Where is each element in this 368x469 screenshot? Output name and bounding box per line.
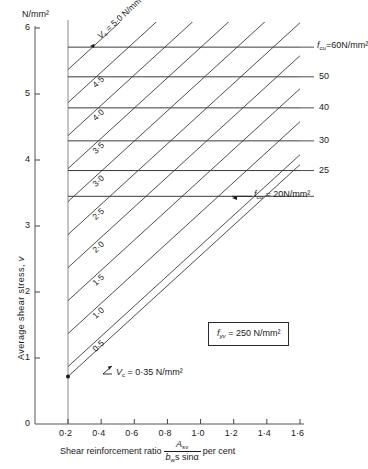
y-axis-title-text: Average shear stress, — [16, 261, 26, 360]
x-tick-label-1·2: 1·2 — [225, 429, 238, 438]
vc-min-start-dot — [66, 374, 70, 378]
vc-diagonal-line — [68, 122, 300, 334]
vc-diagonal-line — [68, 56, 300, 268]
x-axis-title-suffix: per cent — [203, 446, 236, 456]
y-tick-label-4: 4 — [25, 155, 30, 164]
fcu-top-value: =60N/mm² — [326, 40, 368, 50]
fcu-bottom-value: = 20N/mm² — [263, 189, 310, 199]
fcu-label-40: 40 — [319, 103, 329, 112]
x-tick-label-0·8: 0·8 — [158, 429, 171, 438]
x-tick-label-1·0: 1·0 — [192, 429, 205, 438]
y-tick-label-3: 3 — [25, 221, 30, 230]
vc-min-annotation: Vc = 0·35 N/mm² — [116, 368, 183, 378]
fcu-bottom-label: fcu = 20N/mm² — [254, 190, 310, 200]
fcu-top-label: fcu=60N/mm² — [317, 41, 368, 51]
x-axis-den-rest: s sinα — [175, 452, 199, 462]
y-tick-label-1: 1 — [25, 353, 30, 362]
axes-group — [35, 20, 304, 424]
x-tick-label-1·6: 1·6 — [291, 429, 304, 438]
fcu-label-25: 25 — [319, 166, 329, 175]
y-tick-label-5: 5 — [25, 89, 30, 98]
vc-diagonal-line — [68, 23, 300, 235]
y-axis-title-symbol: v — [16, 256, 26, 261]
x-tick-label-0·6: 0·6 — [125, 429, 138, 438]
x-axis-num-subscript: sv — [182, 443, 188, 450]
tick-marks-group — [35, 28, 300, 424]
y-axis-title: Average shear stress, v — [16, 256, 26, 360]
x-axis-title: Shear reinforcement ratio Asv bws sinα p… — [60, 440, 235, 463]
x-axis-fraction-denominator: bws sinα — [164, 452, 201, 463]
fcu-label-50: 50 — [319, 72, 329, 81]
y-tick-label-0: 0 — [25, 419, 30, 428]
vc-min-value: = 0·35 N/mm² — [125, 367, 183, 377]
fyv-note-box: fyv = 250 N/mm² — [208, 322, 289, 346]
x-tick-label-0·2: 0·2 — [59, 429, 72, 438]
x-axis-fraction-numerator: Asv — [164, 440, 201, 452]
x-axis-title-prefix: Shear reinforcement ratio — [60, 446, 162, 456]
x-tick-label-1·4: 1·4 — [258, 429, 271, 438]
y-axis-unit-label: N/mm² — [22, 10, 49, 19]
x-axis-title-fraction: Asv bws sinα — [164, 440, 201, 463]
fyv-value: = 250 N/mm² — [226, 328, 281, 338]
y-tick-label-6: 6 — [25, 23, 30, 32]
fcu-label-30: 30 — [319, 136, 329, 145]
x-tick-label-0·4: 0·4 — [92, 429, 105, 438]
y-tick-label-2: 2 — [25, 287, 30, 296]
